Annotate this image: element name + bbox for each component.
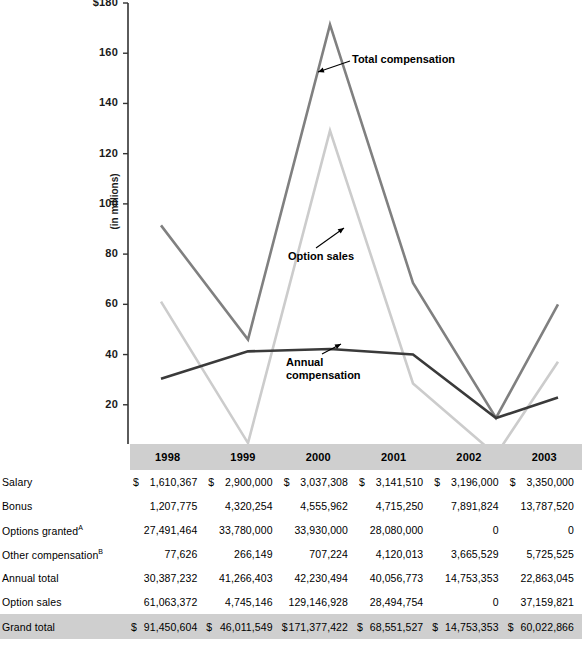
table-column-header-2000: 2000 — [281, 444, 356, 470]
cell-value: 30,387,232 — [144, 572, 198, 584]
cell-value: 3,141,510 — [376, 476, 424, 488]
table-column-header-1999: 1999 — [205, 444, 280, 470]
cell-value: 171,377,422 — [288, 621, 348, 633]
table-cell-bonus-1999: 4,320,254 — [205, 494, 280, 518]
table-row: Option sales61,063,3724,745,146129,146,9… — [0, 590, 582, 614]
cell-value: 27,491,464 — [144, 524, 198, 536]
cell-value: 3,350,000 — [526, 476, 574, 488]
cell-value: 3,037,308 — [300, 476, 348, 488]
row-label-text: Annual total — [2, 572, 59, 584]
cell-value: 707,224 — [309, 548, 348, 560]
cell-value: 0 — [493, 524, 499, 536]
table-row-label-annual-total: Annual total — [0, 566, 130, 590]
table-cell-salary-2000: $3,037,308 — [281, 470, 356, 494]
table-cell-salary-2002: $3,196,000 — [431, 470, 506, 494]
table-cell-annual-total-2001: 40,056,773 — [356, 566, 431, 590]
currency-symbol: $ — [434, 476, 440, 488]
table-cell-annual-total-2003: 22,863,045 — [507, 566, 582, 590]
table-column-header-2001: 2001 — [356, 444, 431, 470]
chart-area: $180160140120100806040200 (in millions) … — [0, 0, 582, 456]
cell-value: 4,120,013 — [376, 548, 424, 560]
cell-value: 13,787,520 — [520, 500, 574, 512]
table-cell-salary-1999: $2,900,000 — [205, 470, 280, 494]
compensation-table: 199819992000200120022003 Salary$1,610,36… — [0, 444, 582, 639]
cell-value: 2,900,000 — [225, 476, 273, 488]
currency-symbol: $ — [282, 621, 288, 633]
cell-value: 1,610,367 — [150, 476, 198, 488]
currency-symbol: $ — [359, 476, 365, 488]
table-cell-option-sales-1999: 4,745,146 — [205, 590, 280, 614]
table-cell-salary-2001: $3,141,510 — [356, 470, 431, 494]
row-label-text: Other compensation — [2, 548, 98, 560]
table-cell-bonus-2002: 7,891,824 — [431, 494, 506, 518]
table-cell-other-compensation-2001: 4,120,013 — [356, 542, 431, 566]
cell-value: 42,230,494 — [294, 572, 348, 584]
cell-value: 0 — [568, 524, 574, 536]
table-cell-annual-total-1998: 30,387,232 — [130, 566, 205, 590]
table-cell-option-sales-2002: 0 — [431, 590, 506, 614]
table-cell-grand-total-1998: $91,450,604 — [130, 614, 205, 639]
annotation-leaders — [316, 61, 350, 354]
table-row: Bonus1,207,7754,320,2544,555,9624,715,25… — [0, 494, 582, 518]
cell-value: 266,149 — [234, 548, 273, 560]
table-row: Annual total30,387,23241,266,40342,230,4… — [0, 566, 582, 590]
cell-value: 3,665,529 — [451, 548, 499, 560]
row-label-text: Options granted — [2, 524, 78, 536]
table-cell-grand-total-2000: $171,377,422 — [281, 614, 356, 639]
cell-value: 28,494,754 — [370, 596, 424, 608]
cell-value: 5,725,525 — [526, 548, 574, 560]
table-header-blank — [0, 444, 130, 470]
table-cell-annual-total-2002: 14,753,353 — [431, 566, 506, 590]
cell-value: 4,715,250 — [376, 500, 424, 512]
table-cell-options-granted-1999: 33,780,000 — [205, 518, 280, 542]
table-row-label-grand-total: Grand total — [0, 614, 130, 639]
row-label-text: Salary — [2, 476, 32, 488]
table-row-label-option-sales: Option sales — [0, 590, 130, 614]
series-line-option-sales — [161, 131, 558, 455]
y-tick-label-60: 60 — [74, 297, 118, 309]
chart-series-layer — [161, 25, 558, 455]
y-tick-label-120: 120 — [74, 147, 118, 159]
table-grand-total-row: Grand total$91,450,604$46,011,549$171,37… — [0, 614, 582, 639]
currency-symbol: $ — [208, 476, 214, 488]
table-column-header-2003: 2003 — [507, 444, 582, 470]
table-row-label-salary: Salary — [0, 470, 130, 494]
cell-value: 28,080,000 — [370, 524, 424, 536]
table-row-label-bonus: Bonus — [0, 494, 130, 518]
footnote-marker: A — [78, 524, 83, 531]
y-tick-label-40: 40 — [74, 348, 118, 360]
y-tick-label-180: $180 — [74, 0, 118, 8]
cell-value: 60,022,866 — [520, 621, 574, 633]
y-tick-label-160: 160 — [74, 46, 118, 58]
table-cell-salary-2003: $3,350,000 — [507, 470, 582, 494]
table-cell-options-granted-2003: 0 — [507, 518, 582, 542]
cell-value: 41,266,403 — [219, 572, 273, 584]
table-row: Salary$1,610,367$2,900,000$3,037,308$3,1… — [0, 470, 582, 494]
table-cell-grand-total-2002: $14,753,353 — [431, 614, 506, 639]
compensation-table-region: 199819992000200120022003 Salary$1,610,36… — [0, 444, 582, 656]
table-cell-grand-total-2001: $68,551,527 — [356, 614, 431, 639]
table-cell-annual-total-1999: 41,266,403 — [205, 566, 280, 590]
annotation-option-sales: Option sales — [288, 250, 354, 263]
table-cell-options-granted-2002: 0 — [431, 518, 506, 542]
table-cell-bonus-2003: 13,787,520 — [507, 494, 582, 518]
table-cell-other-compensation-2002: 3,665,529 — [431, 542, 506, 566]
table-cell-other-compensation-2000: 707,224 — [281, 542, 356, 566]
cell-value: 61,063,372 — [144, 596, 198, 608]
table-column-header-1998: 1998 — [130, 444, 205, 470]
cell-value: 1,207,775 — [150, 500, 198, 512]
table-cell-option-sales-2000: 129,146,928 — [281, 590, 356, 614]
footnote-marker: B — [98, 548, 103, 555]
currency-symbol: $ — [206, 621, 212, 633]
y-tick-label-80: 80 — [74, 247, 118, 259]
cell-value: 40,056,773 — [370, 572, 424, 584]
cell-value: 3,196,000 — [451, 476, 499, 488]
table-row-label-other-compensation: Other compensationB — [0, 542, 130, 566]
cell-value: 0 — [493, 596, 499, 608]
table-cell-bonus-2001: 4,715,250 — [356, 494, 431, 518]
currency-symbol: $ — [284, 476, 290, 488]
table-cell-other-compensation-1999: 266,149 — [205, 542, 280, 566]
currency-symbol: $ — [432, 621, 438, 633]
cell-value: 7,891,824 — [451, 500, 499, 512]
cell-value: 4,555,962 — [300, 500, 348, 512]
